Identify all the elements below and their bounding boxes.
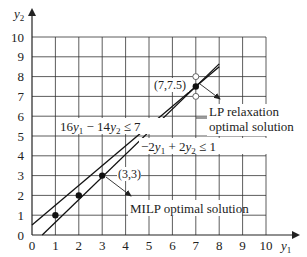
- integer-point: [99, 172, 105, 178]
- x-tick-label: 0: [29, 238, 36, 253]
- lp-optimal-point: [193, 83, 199, 89]
- x-tick-label: 7: [193, 238, 200, 253]
- y-tick-labels: 012345678910: [11, 30, 25, 243]
- y-axis-arrow-icon: [28, 8, 36, 16]
- x-tick-label: 9: [239, 238, 246, 253]
- x-tick-label: 3: [99, 238, 106, 253]
- x-axis-arrow-icon: [292, 231, 300, 239]
- y-axis-label: y2: [12, 6, 24, 23]
- y-tick-label: 4: [18, 148, 25, 163]
- milp-point-label: (3,3): [118, 167, 141, 181]
- x-tick-label: 8: [216, 238, 223, 253]
- line1-label: 16y1 − 14y2 ≤ 7: [60, 119, 141, 136]
- integer-point: [76, 192, 82, 198]
- milp-feasible-region-chart: 012345678910 012345678910 y2 y1 16y1 − 1…: [0, 0, 307, 257]
- y-tick-label: 8: [18, 69, 25, 84]
- branch-point: [193, 74, 199, 80]
- x-tick-label: 1: [52, 238, 59, 253]
- y-tick-label: 9: [18, 49, 25, 64]
- y-tick-label: 0: [18, 228, 25, 243]
- lp-point-label: (7,7.5): [154, 78, 186, 92]
- x-tick-label: 10: [260, 238, 273, 253]
- lp-annotation-line2: optimal solution: [209, 119, 294, 134]
- lp-annotation-line1: LP relaxation: [209, 104, 279, 119]
- y-tick-label: 6: [18, 109, 25, 124]
- milp-annotation: MILP optimal solution: [130, 201, 249, 216]
- y-tick-label: 10: [11, 30, 24, 45]
- y-tick-label: 7: [18, 89, 25, 104]
- x-tick-labels: 012345678910: [29, 238, 273, 253]
- x-tick-label: 6: [169, 238, 176, 253]
- x-tick-label: 4: [122, 238, 129, 253]
- branch-point: [193, 93, 199, 99]
- line2-label: −2y1 + 2y2 ≤ 1: [141, 139, 216, 156]
- x-tick-label: 2: [76, 238, 83, 253]
- y-tick-label: 5: [18, 129, 25, 144]
- integer-point: [52, 212, 58, 218]
- x-axis-label: y1: [279, 238, 291, 255]
- y-tick-label: 3: [18, 168, 25, 183]
- y-tick-label: 1: [18, 208, 25, 223]
- y-tick-label: 2: [18, 188, 25, 203]
- x-tick-label: 5: [146, 238, 153, 253]
